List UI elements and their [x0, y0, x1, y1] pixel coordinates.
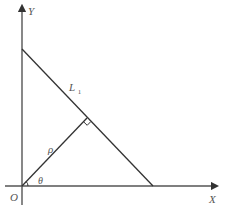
line-l1-label: L 1 — [68, 81, 82, 96]
origin-label: O — [10, 191, 18, 203]
right-angle-marker — [84, 122, 91, 126]
hough-normal-diagram: Y X O L 1 ρ θ — [0, 0, 228, 215]
rho-segment — [22, 118, 87, 186]
line-l1-name: L — [68, 81, 75, 93]
x-axis-label: X — [208, 193, 217, 205]
rho-label: ρ — [47, 143, 53, 155]
y-axis-label: Y — [28, 5, 36, 17]
theta-label: θ — [38, 175, 43, 186]
line-l1-subscript: 1 — [78, 88, 82, 96]
